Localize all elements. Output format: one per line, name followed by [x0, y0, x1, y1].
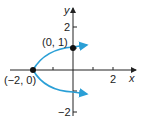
y-tick-label-neg2: −2	[58, 106, 71, 118]
x-tick-label-2: 2	[110, 73, 116, 85]
vertex-label: (−2, 0)	[4, 74, 36, 86]
parabola-lower-branch	[33, 70, 87, 94]
y-intercept-point	[70, 45, 76, 51]
x-axis-label: x	[128, 72, 135, 84]
parabola-upper-branch	[33, 45, 87, 70]
y-axis-label: y	[63, 4, 71, 16]
y-tick-label-2: 2	[64, 21, 70, 33]
vertex-point	[30, 67, 36, 73]
parabola-graph: y x 2 −2 2 (−2, 0) (0, 1)	[0, 0, 143, 119]
intercept-label: (0, 1)	[42, 36, 68, 48]
